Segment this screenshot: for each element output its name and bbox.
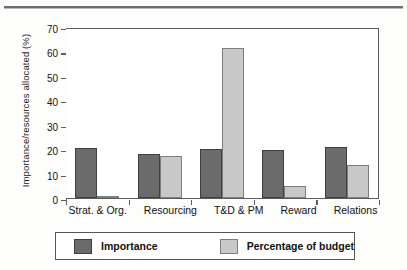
- y-tick-label: 70: [47, 24, 58, 35]
- bar: [222, 48, 244, 198]
- bar-group: [325, 29, 369, 198]
- x-axis-label: T&D & PM: [214, 204, 264, 216]
- plot-area: 010203040506070: [66, 28, 379, 199]
- x-axis-label: Reward: [281, 204, 317, 216]
- chart-legend: Importance Percentage of budget: [55, 232, 355, 260]
- y-tick-label: 30: [47, 121, 58, 132]
- bar: [75, 148, 97, 198]
- x-axis-label: Relations: [334, 204, 378, 216]
- x-axis-label: Strat. & Org.: [68, 204, 126, 216]
- legend-item-budget: Percentage of budget: [202, 239, 354, 254]
- y-tick-label: 60: [47, 48, 58, 59]
- bar: [284, 186, 306, 198]
- legend-label-importance: Importance: [101, 240, 158, 252]
- legend-item-importance: Importance: [56, 239, 202, 254]
- bar: [200, 149, 222, 198]
- bar-group: [75, 29, 119, 198]
- bar: [97, 196, 119, 198]
- x-axis-label: Resourcing: [144, 204, 197, 216]
- bar: [160, 156, 182, 198]
- y-tick-label: 20: [47, 146, 58, 157]
- y-axis-title: Importance/resources allocated (%): [20, 16, 31, 206]
- x-axis-labels: Strat. & Org.ResourcingT&D & PMRewardRel…: [60, 204, 386, 216]
- bar: [325, 147, 347, 198]
- bar: [262, 150, 284, 198]
- legend-swatch-budget: [220, 239, 238, 254]
- page-divider-rule-shadow: [4, 8, 403, 9]
- bar-series-container: [66, 29, 378, 198]
- bar: [347, 165, 369, 198]
- y-tick-label: 0: [52, 195, 58, 206]
- legend-label-budget: Percentage of budget: [247, 240, 354, 252]
- legend-swatch-importance: [74, 239, 92, 254]
- bar-chart-figure: Importance/resources allocated (%) 01020…: [0, 0, 407, 270]
- y-tick-label: 10: [47, 170, 58, 181]
- y-tick-label: 40: [47, 97, 58, 108]
- bar-group: [262, 29, 306, 198]
- y-tick-label: 50: [47, 72, 58, 83]
- bar-group: [200, 29, 244, 198]
- bar-group: [138, 29, 182, 198]
- bar: [138, 154, 160, 198]
